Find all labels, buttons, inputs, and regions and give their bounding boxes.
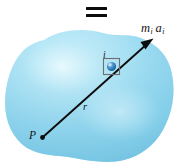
physics-figure: miai i r P — [0, 0, 186, 168]
force-label-m: m — [141, 21, 150, 35]
point-p-marker — [40, 135, 45, 140]
force-vector-label: miai — [141, 22, 165, 35]
point-p-label: P — [29, 130, 36, 142]
force-label-a-sub: i — [162, 27, 164, 36]
force-label-m-sub: i — [151, 27, 153, 36]
particle-index-label: i — [103, 51, 106, 61]
radius-label: r — [83, 102, 87, 113]
